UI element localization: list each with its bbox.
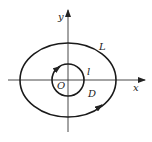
region-label: D bbox=[87, 88, 96, 99]
inner-curve-label: l bbox=[87, 66, 90, 77]
outer-curve-label: L bbox=[98, 41, 106, 52]
y-axis-label: y bbox=[57, 11, 64, 22]
origin-label: O bbox=[57, 80, 65, 91]
x-axis-label: x bbox=[133, 82, 139, 93]
diagram: y x O L l D bbox=[0, 0, 152, 142]
